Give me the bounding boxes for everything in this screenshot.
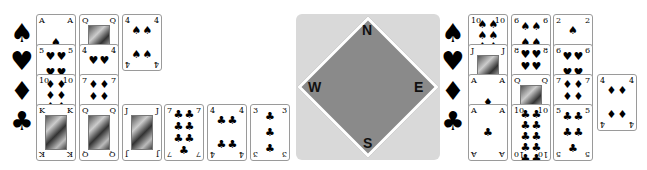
- heart-suit-icon: ♥: [10, 48, 34, 74]
- card-rank-index: 5: [39, 47, 44, 55]
- card-rank-index: Q: [82, 17, 89, 25]
- card-j-of-clubs[interactable]: JJJJ: [122, 104, 162, 161]
- card-rank-index: K: [39, 107, 45, 115]
- card-rank-index: 4: [154, 17, 159, 25]
- face-card-portrait: [88, 115, 110, 150]
- card-rank-index: 4: [600, 120, 605, 128]
- card-rank-index: Q: [82, 150, 89, 158]
- card-rank-index: J: [125, 107, 128, 115]
- card-rank-index: J: [156, 107, 159, 115]
- heart-suit-icon: ♥: [441, 48, 465, 74]
- card-q-of-clubs[interactable]: QQQQ: [79, 104, 119, 161]
- club-pips-icon: ♣♣♣♣♣♣♣: [173, 109, 195, 156]
- card-rank-index: A: [499, 107, 505, 115]
- card-rank-index: 8: [543, 47, 548, 55]
- card-rank-index: Q: [541, 77, 548, 85]
- card-rank-index: J: [156, 150, 159, 158]
- card-rank-index: Q: [109, 107, 116, 115]
- card-rank-index: 4: [125, 17, 130, 25]
- card-rank-index: 7: [556, 77, 561, 85]
- card-rank-index: 7: [585, 77, 590, 85]
- compass-north-label: N: [362, 22, 372, 38]
- spade-suit-icon: ♠: [441, 20, 465, 46]
- card-rank-index: 4: [111, 47, 116, 55]
- card-5-of-clubs[interactable]: 5555♣♣♣♣♣: [553, 104, 593, 161]
- card-rank-index: 5: [585, 150, 590, 158]
- card-a-of-clubs[interactable]: AAAA♣: [468, 104, 508, 161]
- diamond-suit-icon: ♦: [441, 78, 465, 104]
- card-rank-index: J: [125, 150, 128, 158]
- diamond-pips-icon: ♦♦♦♦: [606, 79, 628, 126]
- club-pips-icon: ♣♣♣: [259, 109, 281, 156]
- compass-west-label: W: [308, 79, 321, 95]
- card-rank-index: J: [502, 47, 505, 55]
- card-rank-index: 5: [585, 107, 590, 115]
- card-k-of-clubs[interactable]: KKKK: [36, 104, 76, 161]
- card-rank-index: Q: [109, 150, 116, 158]
- card-rank-index: A: [499, 77, 505, 85]
- card-rank-index: 6: [556, 47, 561, 55]
- compass-south-label: S: [363, 135, 372, 151]
- card-rank-index: 7: [196, 107, 201, 115]
- card-rank-index: Q: [82, 107, 89, 115]
- card-rank-index: K: [67, 107, 73, 115]
- card-rank-index: A: [67, 17, 73, 25]
- card-rank-index: 7: [167, 150, 172, 158]
- card-rank-index: 7: [111, 77, 116, 85]
- card-rank-index: A: [499, 150, 505, 158]
- card-rank-index: A: [471, 77, 477, 85]
- card-rank-index: 5: [556, 150, 561, 158]
- card-rank-index: Q: [109, 17, 116, 25]
- spade-suit-icon: ♠: [10, 20, 34, 46]
- card-rank-index: 8: [514, 47, 519, 55]
- card-rank-index: 2: [556, 17, 561, 25]
- card-rank-index: A: [39, 17, 45, 25]
- club-pips-icon: ♣: [477, 109, 499, 156]
- card-rank-index: J: [471, 47, 474, 55]
- card-4-of-spades[interactable]: 4444♠♠♠♠: [122, 14, 162, 71]
- club-pips-icon: ♣♣♣♣: [216, 109, 238, 156]
- card-rank-index: 4: [125, 60, 130, 68]
- face-card-portrait: [45, 115, 67, 150]
- card-rank-index: Q: [514, 77, 521, 85]
- card-rank-index: 6: [514, 17, 519, 25]
- face-card-portrait: [131, 115, 153, 150]
- card-rank-index: 4: [629, 120, 634, 128]
- card-rank-index: K: [39, 150, 45, 158]
- card-rank-index: 4: [239, 150, 244, 158]
- card-rank-index: 7: [196, 150, 201, 158]
- card-rank-index: A: [471, 107, 477, 115]
- card-rank-index: 4: [82, 47, 87, 55]
- club-pips-icon: ♣♣♣♣♣: [562, 109, 584, 156]
- card-3-of-clubs[interactable]: 3333♣♣♣: [250, 104, 290, 161]
- card-rank-index: 4: [239, 107, 244, 115]
- card-4-of-diamonds[interactable]: 4444♦♦♦♦: [597, 74, 637, 131]
- card-rank-index: A: [471, 150, 477, 158]
- card-4-of-clubs[interactable]: 4444♣♣♣♣: [207, 104, 247, 161]
- card-rank-index: 4: [629, 77, 634, 85]
- diamond-suit-icon: ♦: [10, 78, 34, 104]
- compass-east-label: E: [414, 79, 423, 95]
- club-pips-icon: ♣♣♣♣♣♣♣♣♣♣: [520, 109, 542, 156]
- card-rank-index: 3: [253, 107, 258, 115]
- card-rank-index: 2: [585, 17, 590, 25]
- card-rank-index: 3: [282, 150, 287, 158]
- card-rank-index: 7: [167, 107, 172, 115]
- card-rank-index: 4: [154, 60, 159, 68]
- card-rank-index: 5: [556, 107, 561, 115]
- card-rank-index: 7: [82, 77, 87, 85]
- card-rank-index: 4: [210, 107, 215, 115]
- card-rank-index: 6: [585, 47, 590, 55]
- card-7-of-clubs[interactable]: 7777♣♣♣♣♣♣♣: [164, 104, 204, 161]
- card-rank-index: 5: [68, 47, 73, 55]
- card-rank-index: 4: [600, 77, 605, 85]
- card-rank-index: 3: [253, 150, 258, 158]
- club-suit-icon: ♣: [10, 108, 34, 134]
- card-10-of-clubs[interactable]: 10101010♣♣♣♣♣♣♣♣♣♣: [511, 104, 551, 161]
- card-rank-index: 3: [282, 107, 287, 115]
- compass-table: NSEW: [296, 14, 440, 160]
- card-rank-index: 6: [543, 17, 548, 25]
- club-suit-icon: ♣: [441, 108, 465, 134]
- spade-pips-icon: ♠♠♠♠: [131, 19, 153, 66]
- card-rank-index: 4: [210, 150, 215, 158]
